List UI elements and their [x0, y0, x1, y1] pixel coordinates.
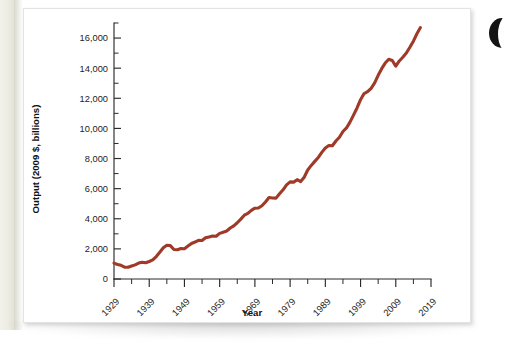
y-tick-label: 12,000 [80, 94, 108, 104]
axes [114, 23, 431, 279]
y-axis-title: Output (2009 $, billions) [30, 105, 41, 214]
y-tick-label: 0 [103, 274, 108, 284]
figure-card: 02,0004,0006,0008,00010,00012,00014,0001… [23, 8, 471, 323]
y-tick-label: 14,000 [80, 64, 108, 74]
y-axis-ticks [114, 23, 121, 279]
figure-drop-shadow [8, 322, 478, 338]
x-tick-label: 1999 [346, 296, 368, 318]
y-tick-label: 4,000 [85, 214, 108, 224]
x-axis-ticks [114, 279, 431, 287]
data-series-real-gdp [114, 28, 420, 268]
x-axis-title: Year [242, 307, 263, 318]
x-tick-label: 1929 [100, 296, 122, 318]
x-tick-label: 1989 [311, 296, 333, 318]
x-axis-tick-labels: 1929193919491959196919791989199920092019 [100, 296, 439, 318]
x-tick-label: 2019 [417, 296, 439, 318]
x-tick-label: 1979 [276, 296, 298, 318]
x-tick-label: 1949 [170, 296, 192, 318]
y-tick-label: 16,000 [80, 33, 108, 43]
y-tick-label: 2,000 [85, 244, 108, 254]
y-tick-label: 10,000 [80, 124, 108, 134]
y-tick-label: 8,000 [85, 154, 108, 164]
book-page-edge-shadow [14, 0, 23, 330]
y-axis-tick-labels: 02,0004,0006,0008,00010,00012,00014,0001… [80, 33, 108, 284]
x-tick-label: 2009 [381, 296, 403, 318]
book-page-edge [0, 0, 14, 330]
x-tick-label: 1939 [135, 296, 157, 318]
y-tick-label: 6,000 [85, 184, 108, 194]
x-tick-label: 1959 [205, 296, 227, 318]
line-chart: 02,0004,0006,0008,00010,00012,00014,0001… [24, 9, 472, 324]
